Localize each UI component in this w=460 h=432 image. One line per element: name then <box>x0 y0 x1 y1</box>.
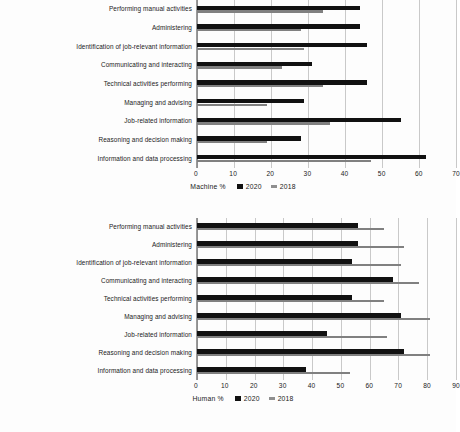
x-tick-label: 60 <box>365 382 373 389</box>
bar-2018 <box>197 246 404 249</box>
x-tick-label: 30 <box>304 170 312 177</box>
bar-2018 <box>197 85 323 88</box>
x-tick-label: 30 <box>279 382 287 389</box>
bar-2018 <box>197 336 387 339</box>
category-label: Administering <box>152 242 192 248</box>
plot-area-human <box>196 218 456 380</box>
legend-label-2018: 2018 <box>280 183 296 190</box>
legend-item-2018-human: 2018 <box>269 395 294 402</box>
category-label: Information and data processing <box>98 155 192 161</box>
gridline-60 <box>419 0 420 168</box>
x-tick-label: 20 <box>250 382 258 389</box>
chart-machine-percent: Performing manual activitiesAdministerin… <box>0 0 456 212</box>
x-tick-label: 70 <box>394 382 402 389</box>
x-tick-label: 40 <box>308 382 316 389</box>
category-label: Technical activities performing <box>104 296 192 302</box>
legend-item-2020-machine: 2020 <box>237 183 262 190</box>
category-label: Performing manual activities <box>109 6 192 12</box>
category-label: Administering <box>152 25 192 31</box>
legend-swatch-2018-icon <box>271 185 277 188</box>
category-label: Identification of job-relevant informati… <box>76 260 192 266</box>
gridline-50 <box>382 0 383 168</box>
bar-2018 <box>197 48 304 51</box>
category-label: Identification of job-relevant informati… <box>76 43 192 49</box>
category-label: Reasoning and decision making <box>99 350 193 356</box>
bar-2018 <box>197 66 282 69</box>
category-label: Communicating and interacting <box>101 62 192 68</box>
bar-2018 <box>197 354 430 357</box>
bar-2018 <box>197 264 401 267</box>
gridline-90 <box>456 218 457 380</box>
legend-swatch-2020-icon <box>235 396 241 401</box>
x-tick-label: 0 <box>194 170 198 177</box>
bar-2018 <box>197 300 384 303</box>
category-label: Reasoning and decision making <box>99 137 193 143</box>
category-label: Communicating and interacting <box>101 278 192 284</box>
x-tick-label: 90 <box>452 382 460 389</box>
bar-2018 <box>197 318 430 321</box>
plot-row-machine: Performing manual activitiesAdministerin… <box>0 0 456 168</box>
legend-title-machine: Machine % <box>190 183 225 190</box>
category-label: Job-related information <box>124 332 192 338</box>
x-tick-label: 70 <box>452 170 460 177</box>
bar-2018 <box>197 141 267 144</box>
x-tick-label: 10 <box>229 170 237 177</box>
bar-2018 <box>197 228 384 231</box>
x-tick-label: 0 <box>194 382 198 389</box>
x-tick-label: 50 <box>378 170 386 177</box>
x-tick-label: 20 <box>266 170 274 177</box>
bar-2018 <box>197 104 267 107</box>
legend-item-2018-machine: 2018 <box>271 183 296 190</box>
x-tick-label: 50 <box>337 382 345 389</box>
legend-human: Human % 2020 2018 <box>0 395 456 402</box>
legend-label-2020: 2020 <box>244 395 260 402</box>
category-label: Technical activities performing <box>104 81 192 87</box>
legend-swatch-2018-icon <box>269 397 275 400</box>
chart-human-percent: Performing manual activitiesAdministerin… <box>0 218 456 432</box>
x-axis-ticks-human: 0102030405060708090 <box>196 380 456 393</box>
x-tick-label: 60 <box>415 170 423 177</box>
category-label: Job-related information <box>124 118 192 124</box>
legend-machine: Machine % 2020 2018 <box>0 183 456 190</box>
category-label: Information and data processing <box>98 368 192 374</box>
bar-2018 <box>197 372 350 375</box>
plot-row-human: Performing manual activitiesAdministerin… <box>0 218 456 380</box>
bar-2018 <box>197 122 330 125</box>
x-tick-label: 40 <box>341 170 349 177</box>
category-label: Performing manual activities <box>109 224 192 230</box>
gridline-70 <box>456 0 457 168</box>
x-axis-ticks-machine: 010203040506070 <box>196 168 456 181</box>
legend-title-human: Human % <box>192 395 223 402</box>
legend-label-2018: 2018 <box>278 395 294 402</box>
category-axis-human: Performing manual activitiesAdministerin… <box>0 218 196 380</box>
legend-swatch-2020-icon <box>237 184 243 189</box>
bar-2018 <box>197 160 371 163</box>
plot-area-machine <box>196 0 456 168</box>
bar-2018 <box>197 29 301 32</box>
category-label: Managing and advising <box>124 99 192 105</box>
x-tick-label: 10 <box>221 382 229 389</box>
category-label: Managing and advising <box>124 314 192 320</box>
bar-2018 <box>197 282 419 285</box>
legend-label-2020: 2020 <box>246 183 262 190</box>
bar-2018 <box>197 10 323 13</box>
category-axis-machine: Performing manual activitiesAdministerin… <box>0 0 196 168</box>
x-tick-label: 80 <box>423 382 431 389</box>
legend-item-2020-human: 2020 <box>235 395 260 402</box>
